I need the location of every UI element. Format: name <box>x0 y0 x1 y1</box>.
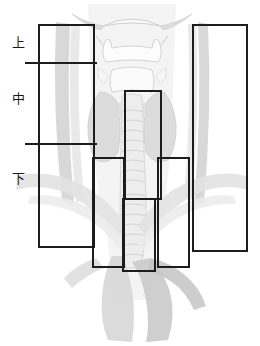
middle-zone-label: 中 <box>12 92 25 105</box>
lower-central-roi <box>122 198 156 272</box>
lower-right-roi <box>157 157 190 268</box>
lower-zone-label: 下 <box>12 172 25 185</box>
left-lateral-roi <box>38 24 95 248</box>
right-lateral-roi <box>192 24 248 252</box>
annotation-overlay: 上 中 下 <box>0 0 260 346</box>
anatomical-zone-figure: 上 中 下 <box>0 0 260 346</box>
lower-left-roi <box>92 157 125 268</box>
upper-zone-label: 上 <box>12 36 25 49</box>
